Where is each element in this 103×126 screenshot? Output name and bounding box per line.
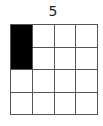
puzzle-number-label: 5 — [0, 3, 103, 19]
grid-cell-r0-c3[interactable] — [76, 25, 98, 48]
grid-cell-r2-c1[interactable] — [33, 70, 55, 93]
grid-cell-r2-c3[interactable] — [76, 70, 98, 93]
grid-cell-r0-c2[interactable] — [55, 25, 77, 48]
grid-cell-r1-c2[interactable] — [55, 48, 77, 71]
grid-cell-r3-c1[interactable] — [33, 93, 55, 116]
grid-cell-r3-c2[interactable] — [55, 93, 77, 116]
grid-cell-r0-c1[interactable] — [33, 25, 55, 48]
grid-cell-r1-c0[interactable] — [11, 48, 33, 71]
grid-cell-r1-c3[interactable] — [76, 48, 98, 71]
grid-cell-r0-c0[interactable] — [11, 25, 33, 48]
grid-board — [10, 24, 98, 115]
grid-cell-r2-c0[interactable] — [11, 70, 33, 93]
grid-cell-r1-c1[interactable] — [33, 48, 55, 71]
grid-cell-r3-c0[interactable] — [11, 93, 33, 116]
grid-cell-r2-c2[interactable] — [55, 70, 77, 93]
grid-cell-r3-c3[interactable] — [76, 93, 98, 116]
